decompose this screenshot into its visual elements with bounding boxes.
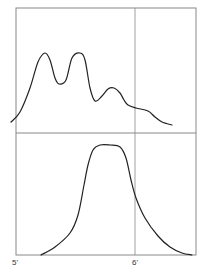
chart-frame	[16, 8, 196, 255]
x-tick-label-6ft: 6'	[132, 259, 138, 267]
chart-figure	[0, 0, 208, 275]
bottom-distribution-curve	[41, 145, 192, 255]
top-distribution-curve	[11, 53, 172, 125]
x-tick-label-5ft: 5'	[12, 259, 18, 267]
